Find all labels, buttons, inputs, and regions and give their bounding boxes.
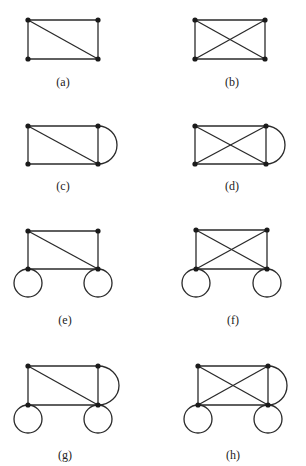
panel-label-d: (d) [225,179,239,193]
multi-edge-arc [268,366,287,405]
graph-vertex [25,161,30,166]
panel-c: (c) [25,123,117,193]
self-loop [182,269,210,297]
panel-label-c: (c) [56,179,69,193]
self-loop [84,405,112,433]
panel-h: (h) [184,363,287,462]
self-loop [84,269,112,297]
graph-vertex [95,56,100,61]
panel-a: (a) [25,17,100,89]
graph-vertex [195,363,200,368]
graph-vertex [25,363,30,368]
graph-vertex [95,17,100,22]
graph-vertex [263,161,268,166]
graph-vertex [264,266,269,271]
self-loop [253,269,281,297]
panel-d: (d) [192,123,285,193]
graph-vertex [25,56,30,61]
multi-edge-arc [98,366,119,405]
panel-label-e: (e) [58,313,71,327]
graph-vertex [192,17,197,22]
panel-label-g: (g) [58,448,72,462]
self-loop [254,405,282,433]
graph-vertex [25,266,30,271]
panel-label-h: (h) [226,448,240,462]
graph-vertex [192,123,197,128]
panel-label-f: (f) [227,313,239,327]
graph-vertex [25,402,30,407]
graph-figure: (a) (b) (c) (d) (e) (f) (g) (h) [0,0,306,466]
graph-edge [28,366,98,405]
graph-vertex [95,161,100,166]
graph-vertex [193,227,198,232]
graph-edge [28,126,98,164]
graph-vertex [95,266,100,271]
graph-vertex [262,17,267,22]
panel-g: (g) [14,363,119,462]
graph-vertex [25,228,30,233]
self-loop [14,405,42,433]
graph-vertex [265,402,270,407]
graph-vertex [95,228,100,233]
graph-vertex [263,123,268,128]
graph-vertex [25,123,30,128]
panel-f: (f) [182,227,281,327]
graph-vertex [265,363,270,368]
graph-vertex [262,56,267,61]
panel-label-b: (b) [225,75,239,89]
graph-vertex [25,17,30,22]
graph-vertex [192,161,197,166]
graph-vertex [195,402,200,407]
graph-vertex [95,363,100,368]
panel-b: (b) [192,17,267,89]
graph-edge [28,231,98,269]
graph-vertex [95,402,100,407]
multi-edge-arc [266,126,285,164]
graph-vertex [264,227,269,232]
graph-vertex [193,266,198,271]
graph-vertex [95,123,100,128]
multi-edge-arc [98,126,117,164]
self-loop [14,269,42,297]
panel-e: (e) [14,228,112,327]
panel-label-a: (a) [56,75,69,89]
graph-vertex [192,56,197,61]
self-loop [184,405,212,433]
graph-edge [28,20,98,59]
